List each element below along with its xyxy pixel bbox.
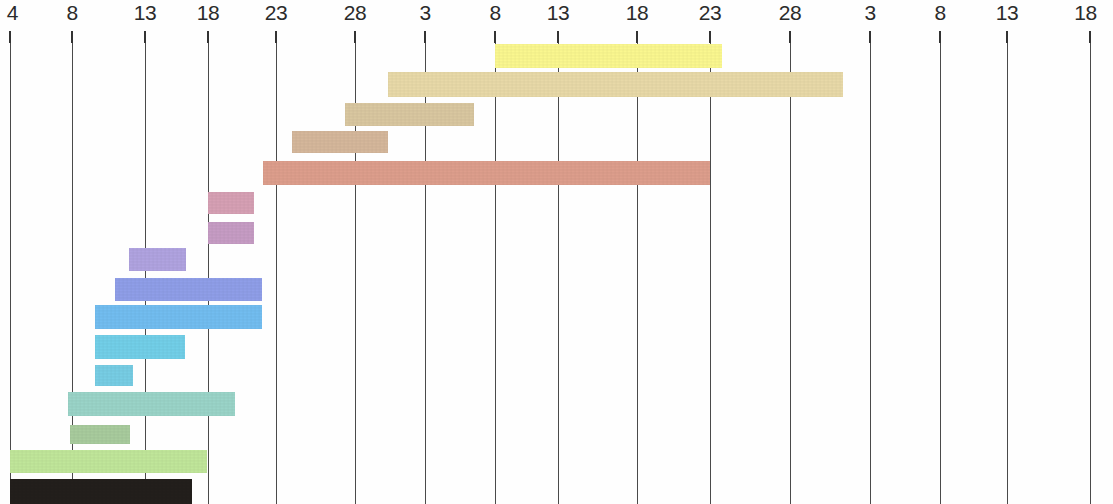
- bar-texture: [95, 335, 185, 359]
- gantt-bar[interactable]: [95, 335, 185, 359]
- gantt-bar[interactable]: [95, 365, 133, 386]
- bar-texture: [70, 425, 130, 444]
- gantt-bar[interactable]: [115, 278, 262, 301]
- gantt-bar[interactable]: [345, 103, 474, 126]
- bar-texture: [208, 192, 254, 214]
- gantt-bar[interactable]: [208, 192, 254, 214]
- bar-texture: [95, 305, 262, 329]
- bar-texture: [115, 278, 262, 301]
- bar-texture: [345, 103, 474, 126]
- gantt-bar[interactable]: [129, 248, 186, 271]
- gantt-chart: 48131823283813182328381318: [0, 0, 1113, 504]
- bar-texture: [388, 72, 843, 97]
- bar-texture: [263, 161, 710, 185]
- gantt-bar[interactable]: [10, 479, 192, 504]
- bar-texture: [129, 248, 186, 271]
- gantt-bar[interactable]: [495, 44, 722, 68]
- gantt-bar[interactable]: [388, 72, 843, 97]
- gantt-bar[interactable]: [68, 392, 235, 416]
- gantt-bar[interactable]: [70, 425, 130, 444]
- gantt-bar[interactable]: [10, 450, 207, 473]
- gantt-bar[interactable]: [292, 131, 388, 153]
- gantt-bar[interactable]: [263, 161, 710, 185]
- bar-texture: [10, 479, 192, 504]
- bar-texture: [208, 222, 254, 244]
- bar-texture: [495, 44, 722, 68]
- bar-texture: [95, 365, 133, 386]
- gantt-bar[interactable]: [208, 222, 254, 244]
- bar-texture: [10, 450, 207, 473]
- bar-texture: [292, 131, 388, 153]
- gantt-bar[interactable]: [95, 305, 262, 329]
- bar-texture: [68, 392, 235, 416]
- gantt-bars-layer: [0, 0, 1113, 504]
